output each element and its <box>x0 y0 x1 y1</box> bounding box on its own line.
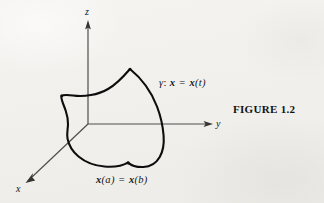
endpoint-arg-a: (a) <box>102 174 115 185</box>
gamma-equals-sign: = <box>175 77 189 88</box>
figure-drawing <box>0 0 324 203</box>
x-axis-line <box>32 124 88 177</box>
gamma-closed-curve <box>61 69 163 167</box>
gamma-lhs-vector: x <box>167 77 176 88</box>
gamma-left-vertex-point <box>60 95 63 98</box>
y-axis-label: y <box>216 119 221 129</box>
axes-group <box>26 20 214 183</box>
x-axis-arrowhead <box>26 173 36 183</box>
endpoint-equals-sign: = <box>115 174 129 185</box>
figure-caption: FIGURE 1.2 <box>233 104 295 115</box>
gamma-endpoint-marker <box>127 161 130 164</box>
endpoint-arg-b: (b) <box>135 174 148 185</box>
x-axis-label: x <box>16 184 21 194</box>
gamma-curve-label: γ:x=x(t) <box>159 78 206 89</box>
gamma-top-cusp-point <box>129 68 132 71</box>
gamma-curve-group <box>60 68 163 167</box>
curve-endpoint-label: x(a)=x(b) <box>96 175 148 186</box>
z-axis-label: z <box>85 7 89 17</box>
figure-page: z y x γ:x=x(t) x(a)=x(b) FIGURE 1.2 <box>0 0 324 203</box>
gamma-parameter: (t) <box>195 77 206 88</box>
